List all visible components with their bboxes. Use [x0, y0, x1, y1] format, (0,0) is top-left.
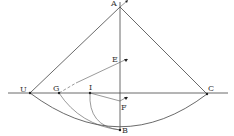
- label-I: I: [89, 83, 92, 92]
- geometry-diagram: A B C U E F G I: [0, 0, 234, 136]
- label-G: G: [53, 84, 59, 93]
- point-C: [206, 93, 208, 95]
- line-I-F: [90, 93, 120, 101]
- line-A-D: [30, 7, 120, 93]
- label-B: B: [122, 126, 128, 135]
- label-D: U: [20, 85, 27, 94]
- point-B: [119, 129, 121, 131]
- point-D: [29, 92, 31, 94]
- label-C: C: [208, 84, 214, 93]
- line-A-C: [120, 7, 207, 94]
- line-G-E-dashed: [59, 83, 76, 93]
- point-I: [89, 92, 91, 94]
- arc-D-B-C: [30, 93, 207, 127]
- arc-I-B: [90, 93, 120, 130]
- label-A: A: [110, 0, 117, 8]
- label-E: E: [112, 55, 118, 64]
- label-F: F: [121, 103, 127, 112]
- arrowhead-E-icon: [124, 59, 128, 62]
- line-G-E: [76, 59, 127, 83]
